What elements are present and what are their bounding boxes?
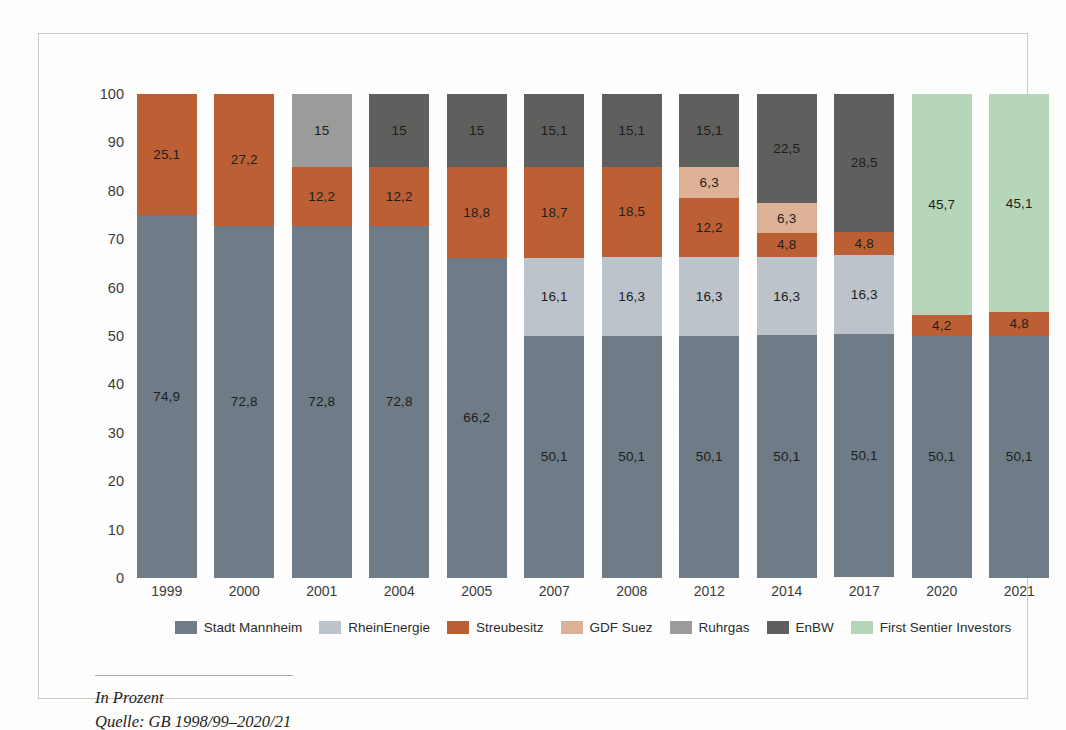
bar-segment[interactable]: 16,3 bbox=[834, 255, 894, 334]
bar-segment-value: 50,1 bbox=[773, 449, 800, 464]
bar-segment-value: 6,3 bbox=[700, 175, 719, 190]
bar-segment-value: 66,2 bbox=[463, 410, 490, 425]
bar-segment[interactable]: 16,3 bbox=[757, 257, 817, 336]
bar-segment[interactable]: 6,3 bbox=[757, 203, 817, 233]
legend-item[interactable]: First Sentier Investors bbox=[851, 620, 1011, 635]
bar-column: 45,74,250,1 bbox=[903, 94, 981, 578]
legend-item[interactable]: Streubesitz bbox=[447, 620, 544, 635]
bar-segment[interactable]: 16,1 bbox=[524, 258, 584, 336]
legend-swatch bbox=[319, 621, 341, 634]
bar-segment-value: 18,5 bbox=[618, 204, 645, 219]
stacked-bar[interactable]: 45,14,850,1 bbox=[989, 94, 1049, 578]
bar-columns: 25,174,927,272,81512,272,81512,272,81518… bbox=[128, 94, 1058, 578]
bar-segment[interactable]: 50,1 bbox=[679, 336, 739, 578]
plot-area: 25,174,927,272,81512,272,81512,272,81518… bbox=[128, 94, 1058, 578]
bar-segment[interactable]: 15,1 bbox=[679, 94, 739, 167]
bar-column: 1518,866,2 bbox=[438, 94, 516, 578]
bar-segment-value: 50,1 bbox=[851, 448, 878, 463]
bar-segment[interactable]: 50,1 bbox=[524, 336, 584, 578]
x-tick-label: 2012 bbox=[671, 583, 749, 607]
bar-segment[interactable]: 66,2 bbox=[447, 258, 507, 578]
bar-segment[interactable]: 50,1 bbox=[912, 336, 972, 578]
bar-segment[interactable]: 45,1 bbox=[989, 94, 1049, 312]
legend-item[interactable]: Stadt Mannheim bbox=[175, 620, 302, 635]
stacked-bar[interactable]: 45,74,250,1 bbox=[912, 94, 972, 578]
legend-item[interactable]: RheinEnergie bbox=[319, 620, 430, 635]
bar-segment[interactable]: 22,5 bbox=[757, 94, 817, 203]
stacked-bar[interactable]: 28,54,816,350,1 bbox=[834, 94, 894, 578]
bar-segment[interactable]: 16,3 bbox=[602, 257, 662, 336]
stacked-bar[interactable]: 1512,272,8 bbox=[292, 94, 352, 578]
bar-segment-value: 4,8 bbox=[1010, 316, 1029, 331]
bar-segment[interactable]: 12,2 bbox=[292, 167, 352, 226]
bar-segment[interactable]: 45,7 bbox=[912, 94, 972, 315]
legend-item[interactable]: GDF Suez bbox=[561, 620, 653, 635]
bar-segment[interactable]: 72,8 bbox=[214, 226, 274, 578]
bar-segment[interactable]: 50,1 bbox=[834, 334, 894, 576]
bar-segment-value: 18,8 bbox=[463, 205, 490, 220]
bar-segment-value: 16,3 bbox=[773, 289, 800, 304]
bar-segment[interactable]: 50,1 bbox=[989, 336, 1049, 578]
bar-segment[interactable]: 4,8 bbox=[834, 232, 894, 255]
bar-segment-value: 15 bbox=[469, 123, 484, 138]
bar-segment[interactable]: 28,5 bbox=[834, 94, 894, 232]
stacked-bar[interactable]: 15,16,312,216,350,1 bbox=[679, 94, 739, 578]
bar-segment-value: 45,1 bbox=[1006, 196, 1033, 211]
bar-segment[interactable]: 18,8 bbox=[447, 167, 507, 258]
bar-column: 15,118,716,150,1 bbox=[516, 94, 594, 578]
bar-segment-value: 4,2 bbox=[932, 318, 951, 333]
y-tick-label: 10 bbox=[79, 522, 124, 538]
y-tick-label: 40 bbox=[79, 376, 124, 392]
bar-segment-value: 15 bbox=[314, 123, 329, 138]
bar-segment[interactable]: 15 bbox=[369, 94, 429, 167]
bar-column: 28,54,816,350,1 bbox=[826, 94, 904, 578]
bar-segment[interactable]: 15,1 bbox=[524, 94, 584, 167]
bar-column: 1512,272,8 bbox=[361, 94, 439, 578]
bar-column: 1512,272,8 bbox=[283, 94, 361, 578]
legend-item[interactable]: Ruhrgas bbox=[670, 620, 750, 635]
bar-segment-value: 12,2 bbox=[386, 189, 413, 204]
bar-segment[interactable]: 15 bbox=[447, 94, 507, 167]
x-tick-label: 2021 bbox=[981, 583, 1059, 607]
bar-segment[interactable]: 4,2 bbox=[912, 315, 972, 335]
bar-segment[interactable]: 50,1 bbox=[757, 335, 817, 577]
bar-segment[interactable]: 72,8 bbox=[292, 226, 352, 578]
legend-item[interactable]: EnBW bbox=[767, 620, 834, 635]
stacked-bar[interactable]: 22,56,34,816,350,1 bbox=[757, 94, 817, 578]
legend-label: Streubesitz bbox=[476, 620, 544, 635]
bar-segment[interactable]: 16,3 bbox=[679, 257, 739, 336]
bar-segment-value: 27,2 bbox=[231, 152, 258, 167]
bar-segment-value: 15,1 bbox=[541, 123, 568, 138]
stacked-bar[interactable]: 15,118,516,350,1 bbox=[602, 94, 662, 578]
stacked-bar[interactable]: 1512,272,8 bbox=[369, 94, 429, 578]
stacked-bar[interactable]: 27,272,8 bbox=[214, 94, 274, 578]
legend-swatch bbox=[175, 621, 197, 634]
bar-segment[interactable]: 50,1 bbox=[602, 336, 662, 578]
bar-segment[interactable]: 6,3 bbox=[679, 167, 739, 197]
bar-segment[interactable]: 27,2 bbox=[214, 94, 274, 226]
legend-label: First Sentier Investors bbox=[880, 620, 1011, 635]
y-tick-label: 30 bbox=[79, 425, 124, 441]
y-tick-label: 20 bbox=[79, 473, 124, 489]
bar-segment-value: 28,5 bbox=[851, 155, 878, 170]
bar-segment[interactable]: 74,9 bbox=[137, 215, 197, 578]
bar-segment[interactable]: 18,7 bbox=[524, 167, 584, 258]
bar-column: 22,56,34,816,350,1 bbox=[748, 94, 826, 578]
bar-segment[interactable]: 72,8 bbox=[369, 226, 429, 578]
bar-segment[interactable]: 4,8 bbox=[757, 233, 817, 256]
bar-column: 27,272,8 bbox=[206, 94, 284, 578]
bar-segment[interactable]: 12,2 bbox=[679, 198, 739, 257]
bar-segment-value: 45,7 bbox=[928, 197, 955, 212]
stacked-bar[interactable]: 25,174,9 bbox=[137, 94, 197, 578]
x-tick-label: 2001 bbox=[283, 583, 361, 607]
bar-segment[interactable]: 25,1 bbox=[137, 94, 197, 215]
bar-segment[interactable]: 15,1 bbox=[602, 94, 662, 167]
bar-segment[interactable]: 4,8 bbox=[989, 312, 1049, 335]
bar-segment[interactable]: 18,5 bbox=[602, 167, 662, 257]
bar-segment[interactable]: 12,2 bbox=[369, 167, 429, 226]
footer-unit-note: In Prozent bbox=[95, 686, 291, 710]
bar-segment-value: 50,1 bbox=[696, 449, 723, 464]
bar-segment[interactable]: 15 bbox=[292, 94, 352, 167]
stacked-bar[interactable]: 15,118,716,150,1 bbox=[524, 94, 584, 578]
stacked-bar[interactable]: 1518,866,2 bbox=[447, 94, 507, 578]
